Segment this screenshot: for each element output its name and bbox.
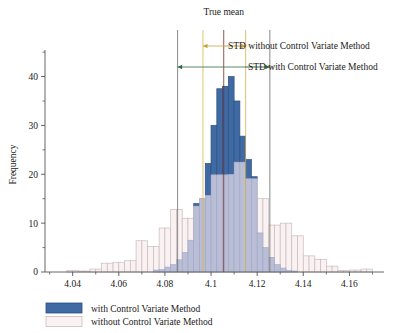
- bar-without-control-variate: [102, 263, 108, 272]
- bar-overlap-region: [182, 252, 188, 272]
- bar-without-control-variate: [142, 241, 148, 272]
- bar-without-control-variate: [315, 259, 321, 272]
- bar-without-control-variate: [113, 262, 119, 272]
- bar-overlap-region: [200, 199, 206, 272]
- x-tick-label: 4.1: [205, 279, 217, 289]
- legend-swatch: [46, 303, 82, 313]
- bar-with-control-variate: [228, 77, 234, 175]
- y-tick-label: 20: [29, 170, 39, 180]
- bar-overlap-region: [194, 206, 200, 272]
- x-tick-label: 4.12: [249, 279, 266, 289]
- bar-without-control-variate: [332, 266, 338, 272]
- bar-without-control-variate: [165, 228, 171, 272]
- y-axis-title: Frequency: [8, 144, 18, 184]
- bar-overlap-region: [240, 162, 246, 272]
- annotation-std-without: STD without Control Variate Method: [203, 41, 370, 51]
- bar-with-control-variate: [234, 101, 240, 162]
- arrow-left-icon: [178, 65, 183, 69]
- bar-overlap-region: [251, 179, 257, 272]
- bar-with-control-variate: [217, 89, 223, 175]
- chart-root: 0102030404.044.064.084.14.124.144.16Freq…: [0, 0, 409, 333]
- annotation-label: STD with Control Variate Method: [248, 62, 378, 72]
- legend-label: without Control Variate Method: [91, 317, 213, 327]
- bar-without-control-variate: [321, 259, 327, 272]
- bar-without-control-variate: [130, 261, 136, 272]
- bar-with-control-variate: [211, 125, 217, 174]
- bar-without-control-variate: [280, 223, 286, 272]
- bar-overlap-region: [228, 174, 234, 272]
- bar-without-control-variate: [125, 261, 131, 272]
- x-tick-label: 4.04: [64, 279, 81, 289]
- x-tick-label: 4.08: [157, 279, 174, 289]
- bar-overlap-region: [217, 175, 223, 272]
- bar-overlap-region: [171, 265, 177, 272]
- x-tick-label: 4.14: [295, 279, 312, 289]
- bar-with-control-variate: [194, 204, 200, 206]
- y-tick-label: 10: [29, 219, 39, 229]
- bar-without-control-variate: [326, 266, 332, 272]
- y-tick-label: 0: [33, 267, 38, 277]
- annotation-std-with: STD with Control Variate Method: [178, 62, 378, 72]
- bar-without-control-variate: [107, 263, 113, 272]
- bar-without-control-variate: [309, 256, 315, 272]
- histogram-chart: 0102030404.044.064.084.14.124.144.16Freq…: [0, 0, 409, 333]
- legend: with Control Variate Methodwithout Contr…: [46, 303, 213, 327]
- bar-without-control-variate: [171, 209, 177, 272]
- bar-overlap-region: [165, 267, 171, 272]
- bar-without-control-variate: [303, 256, 309, 272]
- annotation-label: STD without Control Variate Method: [228, 41, 370, 51]
- bar-with-control-variate: [246, 160, 252, 179]
- x-tick-label: 4.16: [341, 279, 358, 289]
- bar-without-control-variate: [136, 241, 142, 272]
- y-tick-label: 40: [29, 72, 39, 82]
- bar-without-control-variate: [153, 247, 159, 272]
- bar-without-control-variate: [286, 223, 292, 272]
- chart-title: True mean: [203, 7, 244, 17]
- y-tick-label: 30: [29, 121, 39, 131]
- bar-overlap-region: [205, 195, 211, 272]
- bar-with-control-variate: [205, 164, 211, 196]
- bar-overlap-region: [257, 233, 263, 272]
- bar-overlap-region: [234, 162, 240, 272]
- legend-label: with Control Variate Method: [91, 304, 201, 314]
- legend-swatch: [46, 317, 82, 327]
- arrow-left-icon: [203, 44, 208, 48]
- bar-with-control-variate: [240, 136, 246, 162]
- bar-overlap-region: [246, 179, 252, 272]
- bar-without-control-variate: [159, 228, 165, 272]
- bar-without-control-variate: [148, 247, 154, 272]
- bar-overlap-region: [188, 240, 194, 272]
- bar-without-control-variate: [298, 236, 304, 272]
- bar-overlap-region: [274, 265, 280, 272]
- annotations: STD without Control Variate MethodSTD wi…: [178, 41, 378, 72]
- bar-overlap-region: [263, 248, 269, 272]
- bar-overlap-region: [211, 175, 217, 272]
- bar-without-control-variate: [292, 236, 298, 272]
- bar-without-control-variate: [119, 262, 125, 272]
- bar-overlap-region: [280, 268, 286, 272]
- x-tick-label: 4.06: [110, 279, 127, 289]
